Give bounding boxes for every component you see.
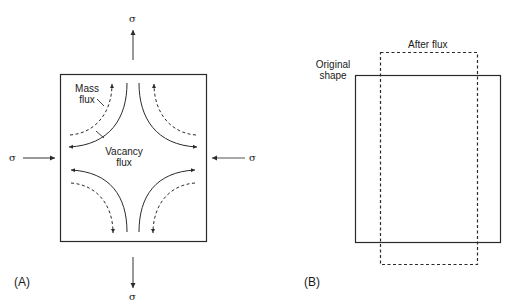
vacancy-flux-label: Vacancy flux <box>100 146 148 168</box>
panel-b-after-flux-shape <box>381 53 478 265</box>
after-flux-label: After flux <box>408 39 447 50</box>
bottom-sigma-label: σ <box>129 291 136 302</box>
mass-flux-label: Mass flux <box>70 83 104 105</box>
panel-b-label: (B) <box>304 277 320 288</box>
top-sigma-label: σ <box>129 13 136 24</box>
panel-b-original-shape <box>356 76 501 243</box>
left-sigma-label: σ <box>9 152 16 163</box>
panel-a-label: (A) <box>14 277 30 288</box>
right-sigma-label: σ <box>249 152 256 163</box>
original-shape-label: Original shape <box>312 59 354 81</box>
